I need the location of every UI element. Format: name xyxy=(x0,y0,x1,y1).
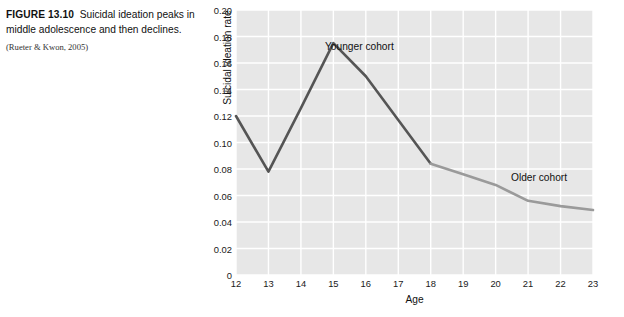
x-axis-tick-label: 15 xyxy=(320,278,346,289)
y-axis-tick-label: 0.06 xyxy=(198,190,232,201)
x-axis-tick-label: 17 xyxy=(385,278,411,289)
x-axis-tick-label: 23 xyxy=(580,278,606,289)
x-axis-title: Age xyxy=(236,294,593,305)
x-axis-tick-label: 18 xyxy=(418,278,444,289)
y-axis-tick-label: 0.16 xyxy=(198,58,232,69)
x-axis-tick-label: 22 xyxy=(548,278,574,289)
figure-caption-text: FIGURE 13.10 Suicidal ideation peaks in … xyxy=(6,8,196,37)
y-axis-tick-label: 0.12 xyxy=(198,111,232,122)
figure-number: FIGURE 13.10 xyxy=(6,9,74,20)
y-axis-tick-label: 0.20 xyxy=(198,5,232,16)
y-axis-tick-label: 0.04 xyxy=(198,217,232,228)
x-axis-tick-label: 14 xyxy=(288,278,314,289)
series-annotation-older-cohort: Older cohort xyxy=(511,172,567,183)
y-axis-tick-label: 0.08 xyxy=(198,164,232,175)
plot-area: Younger cohort Older cohort xyxy=(236,10,593,275)
y-axis-tick-labels: 00.020.040.060.080.100.120.140.160.180.2… xyxy=(196,10,232,275)
y-axis-tick-label: 0.02 xyxy=(198,243,232,254)
y-axis-tick-label: 0.10 xyxy=(198,137,232,148)
x-axis-tick-label: 12 xyxy=(223,278,249,289)
x-axis-tick-label: 20 xyxy=(483,278,509,289)
data-series-layer xyxy=(236,10,593,275)
x-axis-tick-label: 16 xyxy=(353,278,379,289)
x-axis-tick-label: 13 xyxy=(255,278,281,289)
series-line xyxy=(236,43,431,172)
x-axis-tick-label: 21 xyxy=(515,278,541,289)
x-axis-tick-labels: 121314151617181920212223 xyxy=(236,278,593,292)
series-annotation-younger-cohort: Younger cohort xyxy=(325,41,394,52)
y-axis-tick-label: 0.14 xyxy=(198,84,232,95)
series-line xyxy=(431,164,593,210)
figure-caption-block: FIGURE 13.10 Suicidal ideation peaks in … xyxy=(6,8,196,53)
figure-source-citation: (Rueter & Kwon, 2005) xyxy=(6,41,196,53)
y-axis-tick-label: 0.18 xyxy=(198,31,232,42)
x-axis-tick-label: 19 xyxy=(450,278,476,289)
line-chart: Suicidal ideation rate 00.020.040.060.08… xyxy=(196,0,624,317)
